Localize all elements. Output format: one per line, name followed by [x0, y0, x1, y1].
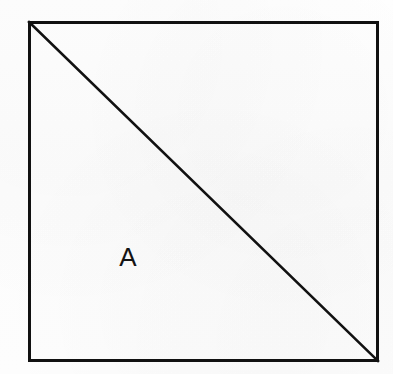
- diagonal-line: [29, 22, 378, 361]
- region-label-a: A: [108, 241, 148, 273]
- geometry-shape-layer: [0, 0, 393, 374]
- figure-canvas: A: [0, 0, 393, 374]
